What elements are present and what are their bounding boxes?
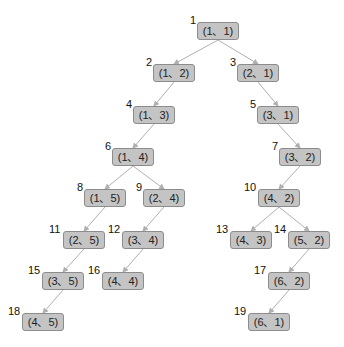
node-index-label: 12	[108, 224, 120, 235]
edge-4-6	[133, 124, 154, 148]
tree-node-6: (1、4)	[112, 148, 154, 166]
node-index-label: 17	[254, 265, 266, 276]
node-index-label: 4	[126, 99, 132, 110]
tree-node-12: (3、4)	[122, 231, 164, 249]
tree-node-8: (1、5)	[84, 189, 126, 207]
edge-1-3	[218, 40, 258, 64]
node-index-label: 11	[49, 224, 60, 235]
node-index-label: 15	[28, 265, 40, 276]
tree-node-19: (6、1)	[248, 313, 290, 331]
node-index-label: 1	[190, 15, 196, 26]
tree-node-15: (3、5)	[42, 272, 84, 290]
edge-9-12	[143, 207, 164, 231]
node-index-label: 13	[216, 224, 228, 235]
edge-7-10	[279, 166, 300, 189]
tree-node-10: (4、2)	[258, 189, 300, 207]
node-index-label: 14	[274, 224, 286, 235]
edge-5-7	[278, 124, 300, 148]
node-index-label: 19	[234, 306, 246, 317]
edge-12-16	[123, 249, 143, 272]
edge-6-8	[105, 166, 133, 189]
node-index-label: 16	[88, 265, 100, 276]
edge-2-4	[154, 82, 174, 106]
edge-3-5	[258, 82, 278, 106]
edge-14-17	[289, 249, 309, 272]
edge-8-11	[84, 207, 105, 231]
tree-node-14: (5、2)	[288, 231, 330, 249]
tree-node-1: (1、1)	[197, 22, 239, 40]
tree-node-3: (2、1)	[237, 64, 279, 82]
edge-11-15	[63, 249, 84, 272]
node-index-label: 8	[77, 182, 83, 193]
edge-1-2	[174, 40, 218, 64]
tree-node-13: (4、3)	[230, 231, 272, 249]
tree-node-7: (3、2)	[279, 148, 321, 166]
node-index-label: 9	[136, 182, 142, 193]
tree-node-9: (2、4)	[143, 189, 185, 207]
tree-node-16: (4、4)	[102, 272, 144, 290]
edge-15-18	[43, 290, 63, 313]
tree-node-5: (3、1)	[257, 106, 299, 124]
node-index-label: 10	[244, 182, 256, 193]
tree-node-2: (1、2)	[153, 64, 195, 82]
tree-node-11: (2、5)	[63, 231, 105, 249]
edges-layer	[0, 0, 344, 347]
node-index-label: 18	[8, 306, 20, 317]
node-index-label: 6	[105, 141, 111, 152]
tree-node-17: (6、2)	[268, 272, 310, 290]
tree-node-4: (1、3)	[133, 106, 175, 124]
node-index-label: 5	[250, 99, 256, 110]
tree-diagram: (1、1)1(1、2)2(2、1)3(1、3)4(3、1)5(1、4)6(3、2…	[0, 0, 344, 347]
tree-node-18: (4、5)	[22, 313, 64, 331]
node-index-label: 3	[230, 57, 236, 68]
node-index-label: 2	[146, 57, 152, 68]
node-index-label: 7	[272, 141, 278, 152]
edge-17-19	[269, 290, 289, 313]
